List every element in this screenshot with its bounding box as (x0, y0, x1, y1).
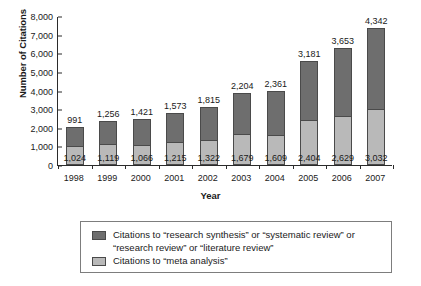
bar-segment-meta-analysis[interactable]: 1,024 (66, 146, 84, 165)
y-axis-tick-mark (58, 91, 62, 92)
bar-value-label-bottom: 3,032 (365, 153, 388, 163)
bar-segment-meta-analysis[interactable]: 1,322 (200, 140, 218, 165)
y-axis-tick-mark (58, 35, 62, 36)
y-axis-tick-label: 1,000 (9, 142, 58, 152)
x-axis-label: 2007 (358, 173, 392, 183)
bar-group[interactable]: 2,2041,679 (233, 93, 251, 165)
bar-segment-meta-analysis[interactable]: 1,066 (133, 145, 151, 165)
bar-segment-research-synthesis[interactable]: 1,421 (133, 119, 151, 145)
y-axis-tick-mark (58, 147, 62, 148)
bar-segment-research-synthesis[interactable]: 2,204 (233, 93, 251, 134)
legend-item-label: Citations to “research synthesis” or “sy… (113, 229, 355, 254)
y-axis-tick-label: 3,000 (9, 105, 58, 115)
x-axis-label: 2002 (191, 173, 225, 183)
bar-group[interactable]: 3,6532,629 (334, 48, 352, 165)
bar-value-label-bottom: 1,215 (164, 153, 187, 163)
y-axis-tick-mark (58, 128, 62, 129)
bar-segment-meta-analysis[interactable]: 1,119 (99, 144, 117, 165)
bar-value-label-top: 4,342 (365, 16, 388, 26)
bar-segment-meta-analysis[interactable]: 2,629 (334, 116, 352, 165)
x-axis-tick-mark (159, 165, 160, 169)
x-axis-tick-mark (393, 165, 394, 169)
bar-value-label-top: 3,181 (298, 49, 321, 59)
bar-segment-meta-analysis[interactable]: 1,679 (233, 134, 251, 165)
x-axis-label: 2003 (224, 173, 258, 183)
x-axis-label: 2000 (124, 173, 158, 183)
bar-value-label-bottom: 1,066 (130, 153, 153, 163)
y-axis-tick-label: 6,000 (9, 49, 58, 59)
chart-legend: Citations to “research synthesis” or “sy… (80, 221, 392, 273)
bar-group[interactable]: 1,2561,119 (99, 121, 117, 165)
bar-value-label-bottom: 1,679 (231, 153, 254, 163)
bar-segment-research-synthesis[interactable]: 3,653 (334, 48, 352, 116)
bar-value-label-bottom: 2,629 (331, 153, 354, 163)
bar-value-label-bottom: 1,609 (264, 153, 287, 163)
y-axis-tick-mark (58, 72, 62, 73)
bar-value-label-bottom: 1,322 (197, 153, 220, 163)
bar-segment-meta-analysis[interactable]: 2,404 (300, 120, 318, 165)
bar-group[interactable]: 2,3611,609 (267, 91, 285, 165)
y-axis-tick-label: 2,000 (9, 124, 58, 134)
bar-value-label-top: 1,256 (97, 109, 120, 119)
y-axis-tick-label: 5,000 (9, 68, 58, 78)
x-axis-label: 2004 (258, 173, 292, 183)
bar-value-label-top: 1,815 (197, 95, 220, 105)
bar-segment-research-synthesis[interactable]: 991 (66, 127, 84, 145)
x-axis-label: 2005 (291, 173, 325, 183)
plot-area: 01,0002,0003,0004,0005,0006,0007,0008,00… (57, 17, 392, 166)
bar-value-label-top: 3,653 (331, 36, 354, 46)
bar-value-label-bottom: 1,024 (63, 153, 86, 163)
y-axis-tick-mark (58, 17, 62, 18)
bar-segment-meta-analysis[interactable]: 1,215 (166, 142, 184, 165)
y-axis-tick-mark (58, 54, 62, 55)
bar-segment-research-synthesis[interactable]: 1,256 (99, 121, 117, 144)
bar-value-label-top: 1,573 (164, 101, 187, 111)
y-axis-tick-label: 8,000 (9, 12, 58, 22)
dark-gray-swatch-icon (92, 231, 106, 240)
bar-value-label-bottom: 1,119 (97, 153, 119, 163)
y-axis-tick-mark (58, 110, 62, 111)
bar-segment-research-synthesis[interactable]: 1,815 (200, 107, 218, 141)
x-axis-tick-mark (192, 165, 193, 169)
x-axis-tick-mark (92, 165, 93, 169)
citations-stacked-bar-chart: Number of Citations 01,0002,0003,0004,00… (0, 0, 421, 286)
bar-group[interactable]: 3,1812,404 (300, 61, 318, 165)
x-axis-label: 1999 (90, 173, 124, 183)
bar-segment-meta-analysis[interactable]: 1,609 (267, 135, 285, 165)
bar-group[interactable]: 9911,024 (66, 127, 84, 165)
bar-segment-meta-analysis[interactable]: 3,032 (367, 109, 385, 165)
x-axis-tick-mark (58, 165, 59, 169)
bar-segment-research-synthesis[interactable]: 2,361 (267, 91, 285, 135)
bar-value-label-top: 2,204 (231, 81, 254, 91)
x-axis-tick-mark (293, 165, 294, 169)
bar-value-label-top: 991 (67, 115, 82, 125)
bar-segment-research-synthesis[interactable]: 3,181 (300, 61, 318, 120)
x-axis-tick-mark (125, 165, 126, 169)
bar-group[interactable]: 1,5731,215 (166, 113, 184, 165)
light-gray-swatch-icon (92, 257, 106, 266)
bar-value-label-bottom: 2,404 (298, 153, 321, 163)
legend-item-label: Citations to “meta analysis” (113, 255, 228, 268)
x-axis-tick-mark (326, 165, 327, 169)
x-axis-tick-mark (259, 165, 260, 169)
bar-group[interactable]: 4,3423,032 (367, 28, 385, 165)
bar-group[interactable]: 1,8151,322 (200, 107, 218, 165)
bar-group[interactable]: 1,4211,066 (133, 119, 151, 165)
bar-segment-research-synthesis[interactable]: 4,342 (367, 28, 385, 109)
x-axis-tick-mark (360, 165, 361, 169)
x-axis-label: 2001 (157, 173, 191, 183)
x-axis-tick-mark (226, 165, 227, 169)
x-axis-label: 1998 (57, 173, 91, 183)
x-axis-label: 2006 (325, 173, 359, 183)
x-axis-title: Year (0, 190, 421, 201)
y-axis-tick-label: 7,000 (9, 31, 58, 41)
legend-item-meta-analysis: Citations to “meta analysis” (92, 255, 228, 268)
bar-segment-research-synthesis[interactable]: 1,573 (166, 113, 184, 142)
y-axis-tick-label: 0 (9, 161, 58, 171)
bar-value-label-top: 1,421 (130, 107, 153, 117)
legend-item-research-synthesis: Citations to “research synthesis” or “sy… (92, 229, 355, 254)
bar-value-label-top: 2,361 (264, 79, 287, 89)
y-axis-tick-label: 4,000 (9, 87, 58, 97)
